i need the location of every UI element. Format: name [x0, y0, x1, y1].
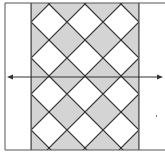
- marks: [156, 115, 157, 117]
- tessellation-diagram: [0, 0, 165, 153]
- dot-mark: [156, 115, 157, 117]
